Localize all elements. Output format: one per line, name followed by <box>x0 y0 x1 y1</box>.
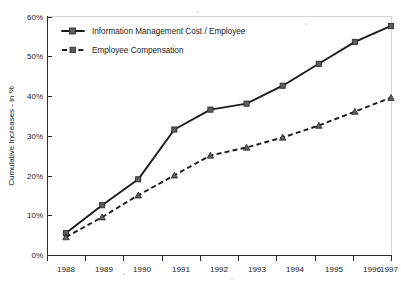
x-tick-label: 1994 <box>286 265 304 274</box>
data-point <box>208 107 213 112</box>
x-tick-label: 1989 <box>95 265 113 274</box>
x-tick-label: 1992 <box>210 265 228 274</box>
y-tick-label: 30% <box>27 132 43 141</box>
x-tick-label: 1988 <box>57 265 75 274</box>
chart-page: 60% 50% 40% 30% 20% 10% 0% Cumulative In… <box>0 0 401 287</box>
data-point <box>388 23 393 28</box>
data-point <box>172 127 177 132</box>
legend-label-series-1: Information Management Cost / Employee <box>92 27 246 36</box>
y-axis-title: Cumulative Increases - in % <box>7 86 16 186</box>
scan-speck <box>231 278 233 280</box>
data-point <box>136 177 141 182</box>
y-tick-label: 10% <box>27 211 43 220</box>
x-tick-label: 1997 <box>380 265 398 274</box>
y-tick-label: 50% <box>27 52 43 61</box>
data-point <box>352 39 357 44</box>
x-tick-label: 1995 <box>325 265 343 274</box>
line-chart: 60% 50% 40% 30% 20% 10% 0% Cumulative In… <box>0 0 401 287</box>
legend-label-series-2: Employee Compensation <box>92 46 184 55</box>
x-tick-label: 1996 <box>363 265 381 274</box>
scan-speck <box>305 23 307 25</box>
data-point <box>244 101 249 106</box>
data-point <box>100 203 105 208</box>
legend-swatch-marker-dashed <box>70 47 75 52</box>
y-tick-label: 20% <box>27 172 43 181</box>
data-point <box>280 83 285 88</box>
scan-speck <box>197 11 199 13</box>
x-tick-label: 1993 <box>248 265 266 274</box>
x-tick-label: 1991 <box>172 265 190 274</box>
y-tick-label: 0% <box>31 251 43 260</box>
scan-speck <box>123 273 125 275</box>
legend-swatch-marker-square <box>70 28 76 34</box>
y-tick-label: 40% <box>27 92 43 101</box>
chart-background <box>0 0 401 287</box>
data-point <box>316 61 321 66</box>
y-tick-label: 60% <box>27 13 43 22</box>
x-tick-label: 1990 <box>133 265 151 274</box>
